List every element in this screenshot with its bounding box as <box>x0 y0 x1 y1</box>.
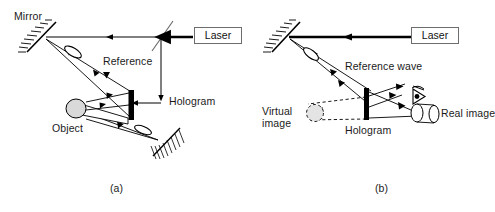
panel-a-group <box>18 20 193 159</box>
reference-ray-a2 <box>46 39 130 117</box>
real-image-ray-b2 <box>369 116 418 118</box>
caption-a: (a) <box>110 183 123 195</box>
beam-arrow-icon-a1 <box>106 34 113 40</box>
beam-arrow-icon-b1 <box>343 34 352 41</box>
virtual-image-dashed-ray-b1 <box>308 97 366 104</box>
label-object-a: Object <box>52 123 83 135</box>
label-reference-a: Reference <box>103 56 152 68</box>
eye-ray-b2 <box>369 95 402 107</box>
virtual-image-dashed-cylinder-icon <box>307 105 324 122</box>
label-mirror-a: Mirror <box>14 11 42 23</box>
label-hologram-a: Hologram <box>169 96 215 108</box>
label-real-image-b: Real image <box>441 108 495 120</box>
label-reference-wave-b: Reference wave <box>345 61 422 73</box>
beam-arrow-icon-b5 <box>398 102 406 110</box>
laser-box-a: Laser <box>194 27 242 44</box>
label-hologram-b: Hologram <box>345 125 391 137</box>
mirror-hatched-icon-a-lower <box>151 128 184 159</box>
label-virtual-image-line1: Virtual <box>262 106 292 118</box>
real-image-cylinder-icon <box>411 104 439 123</box>
hologram-plate-icon-b <box>364 88 369 120</box>
laser-box-b: Laser <box>411 27 459 44</box>
label-virtual-image-line2: image <box>262 118 291 130</box>
caption-b: (b) <box>375 183 388 195</box>
holography-figure: Mirror Laser Reference Hologram Object (… <box>0 0 495 212</box>
hologram-plate-icon-a <box>129 90 135 120</box>
eye-icon <box>412 86 425 104</box>
object-cylinder-icon <box>66 99 128 124</box>
mirror-hatched-icon-a <box>18 20 56 52</box>
lens-ellipse-icon-b-reference <box>302 45 321 62</box>
